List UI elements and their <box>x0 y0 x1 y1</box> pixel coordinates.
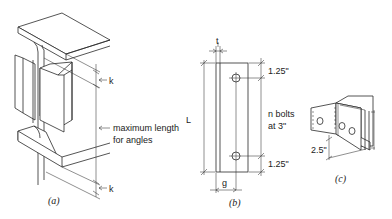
panel-c-caption: (c) <box>335 173 347 185</box>
dim-g-label: g <box>222 178 227 188</box>
right-angle <box>40 62 72 132</box>
max-length-dimension <box>93 64 110 197</box>
framing-angle-diagram: k k maximum length for angles (a) t <box>0 0 392 219</box>
max-length-label-line2: for angles <box>113 135 153 145</box>
panel-b-angle-elevation: t L 1.25" n bolts at 3" 1.25" <box>186 36 295 209</box>
panel-a-beam-connection: k k maximum length for angles (a) <box>15 13 179 207</box>
dim-L-label: L <box>186 115 191 125</box>
bolts-label-line2: at 3" <box>268 121 286 131</box>
dim-k-bottom-label: k <box>109 184 114 194</box>
dim-t-label: t <box>216 36 219 46</box>
top-flange <box>18 13 110 60</box>
length-dimension <box>200 60 215 175</box>
dim-2-5-label: 2.5" <box>311 145 327 155</box>
panel-b-caption: (b) <box>229 197 241 209</box>
dim-k-top-label: k <box>109 76 114 86</box>
panel-c-angle-isometric: 2.5" (c) <box>311 96 375 185</box>
bolt-spacing-dimension <box>249 58 265 176</box>
panel-a-caption: (a) <box>48 195 60 207</box>
bolts-label-line1: n bolts <box>268 109 295 119</box>
max-length-label-line1: maximum length <box>113 123 179 133</box>
edge-distance-top-label: 1.25" <box>268 66 289 76</box>
edge-distance-bottom-label: 1.25" <box>268 159 289 169</box>
left-angle <box>15 55 35 123</box>
